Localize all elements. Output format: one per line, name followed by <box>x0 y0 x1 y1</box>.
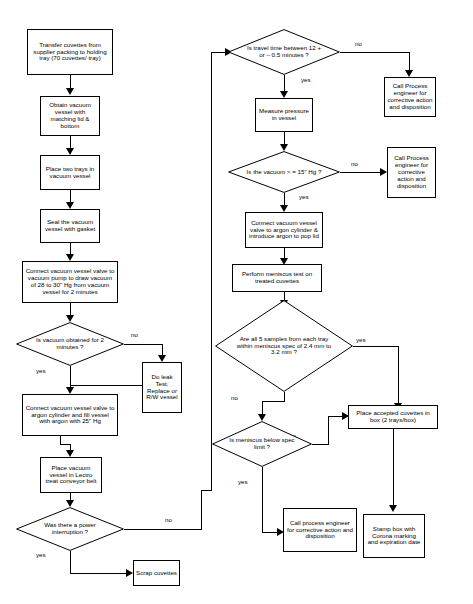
node-place-trays: Place two trays in vacuum vessel <box>40 155 100 190</box>
edge-label-vacuum-yes: yes <box>36 367 46 374</box>
node-vacuum-15-question: Is the vacuum > = 15" Hg ? <box>228 151 340 193</box>
node-seal-vessel: Seal the vacuum vessel with gasket <box>40 209 100 243</box>
node-label: Place two trays in vacuum vessel <box>43 166 97 180</box>
node-label: Is the vacuum > = 15" Hg ? <box>244 169 325 176</box>
node-label: Transfer cuvettes from supplier packing … <box>30 42 110 63</box>
arrow-down <box>66 148 74 155</box>
edge-label-power-yes: yes <box>36 551 46 558</box>
edge-label-travel-yes: yes <box>301 76 311 83</box>
node-vacuum-obtained-question: Is vacuum obtained for 2 minutes ? <box>16 322 124 366</box>
node-label: Place vacuum vessel in Lectro treat conv… <box>43 465 99 486</box>
edge-label-power-no: no <box>165 516 172 523</box>
node-meniscus-below-question: Is meniscus below spec limit ? <box>212 421 312 467</box>
edge-label-travel-no: no <box>355 40 362 47</box>
node-travel-time-question: Is travel time between 12 + or – 0.5 min… <box>228 29 340 75</box>
node-label: Is vacuum obtained for 2 minutes ? <box>31 337 109 351</box>
node-stamp-box: Stamp box with Corona marking and expira… <box>363 514 425 558</box>
node-label: Place accepted cuvettes in box (2 trays/… <box>351 410 435 424</box>
arrow-down <box>405 70 413 77</box>
node-power-interruption-question: Was there a power interruption ? <box>16 507 124 551</box>
arrow-down <box>66 315 74 322</box>
node-label: Connect vacuum vessel valve to vacuum pu… <box>25 268 115 296</box>
arrow-down <box>66 500 74 507</box>
node-meniscus-test: Perform meniscus test on treated cuvette… <box>232 264 322 292</box>
node-label: Is travel time between 12 + or – 0.5 min… <box>244 45 325 59</box>
arrow-down <box>158 355 166 362</box>
node-label: Call Process engineer for corrective act… <box>387 83 433 111</box>
node-call-process-2: Call Process engineer for corrective act… <box>387 147 436 198</box>
node-label: Scrap cuvettes <box>136 570 177 577</box>
node-label: Stamp box with Corona marking and expira… <box>366 526 422 547</box>
node-label: Are all 5 samples from each tray within … <box>234 336 333 357</box>
node-call-process-1: Call Process engineer for corrective act… <box>384 77 436 117</box>
arrow-down <box>280 91 288 98</box>
node-connect-argon-fill: Connect vacuum vessel valve to argon cyl… <box>22 394 118 436</box>
arrow-down <box>280 144 288 151</box>
node-call-process-3: Call process engineer for corrective act… <box>283 508 357 552</box>
node-label: Call Process engineer for corrective act… <box>390 155 433 190</box>
arrow-down <box>389 505 397 512</box>
edge-label-samples-no: no <box>231 394 238 401</box>
node-label: Is meniscus below spec limit ? <box>226 437 298 451</box>
edge-label-vac15-no: no <box>351 160 358 167</box>
edge-label-vacuum-no: no <box>131 331 138 338</box>
edge-label-samples-yes: yes <box>356 336 366 343</box>
node-connect-pump: Connect vacuum vessel valve to vacuum pu… <box>22 261 118 303</box>
node-label: Call process engineer for corrective act… <box>286 520 354 541</box>
node-label: Do leak Test. Replace or R/W vessel <box>145 374 179 402</box>
node-label: Measure pressure in vessel <box>258 108 310 122</box>
node-do-leak-test: Do leak Test. Replace or R/W vessel <box>142 362 182 413</box>
arrow-down <box>66 202 74 209</box>
arrow-down <box>66 387 74 394</box>
node-scrap-cuvettes: Scrap cuvettes <box>133 560 180 586</box>
flowchart-canvas: Transfer cuvettes from supplier packing … <box>0 0 473 604</box>
node-samples-spec-question: Are all 5 samples from each tray within … <box>215 300 353 392</box>
arrow-down <box>66 88 74 95</box>
edge-label-meniscus-yes: yes <box>238 478 248 485</box>
arrow-down <box>258 414 266 421</box>
node-place-accepted: Place accepted cuvettes in box (2 trays/… <box>348 405 438 429</box>
node-label: Connect vacuum vessel valve to argon cyl… <box>25 405 115 426</box>
node-measure-pressure: Measure pressure in vessel <box>255 98 313 132</box>
node-obtain-vessel: Obtain vacuum vessel with matching lid &… <box>40 96 100 136</box>
edge-label-vac15-yes: yes <box>299 193 309 200</box>
node-connect-argon-pop: Connect vacuum vessel valve to argon cyl… <box>245 212 323 248</box>
arrow-right <box>126 569 133 577</box>
arrow-right <box>380 168 387 176</box>
arrow-down <box>66 254 74 261</box>
node-label: Connect vacuum vessel valve to argon cyl… <box>248 220 320 241</box>
node-place-lectro: Place vacuum vessel in Lectro treat conv… <box>40 457 102 493</box>
node-label: Obtain vacuum vessel with matching lid &… <box>43 102 97 130</box>
node-transfer-cuvettes: Transfer cuvettes from supplier packing … <box>27 29 113 75</box>
node-label: Seal the vacuum vessel with gasket <box>43 219 97 233</box>
node-label: Perform meniscus test on treated cuvette… <box>235 271 319 285</box>
arrow-down <box>66 450 74 457</box>
node-label: Was there a power interruption ? <box>31 522 109 536</box>
arrow-down <box>280 205 288 212</box>
